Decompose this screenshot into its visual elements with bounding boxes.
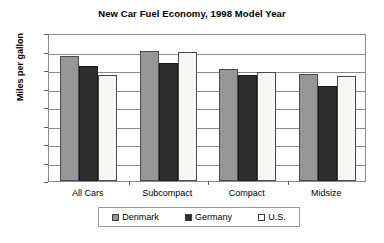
bar-midsize-germany <box>318 86 337 181</box>
bar-chart-figure: New Car Fuel Economy, 1998 Model Year Mi… <box>0 0 384 243</box>
x-tick-label: Compact <box>229 188 265 198</box>
plot-area <box>48 34 366 182</box>
bar-group <box>49 35 129 181</box>
legend-label: U.S. <box>268 212 286 222</box>
y-tick-mark <box>44 108 48 109</box>
y-tick-mark <box>44 53 48 54</box>
legend-item-u-s-[interactable]: U.S. <box>258 212 286 222</box>
chart-title: New Car Fuel Economy, 1998 Model Year <box>0 8 384 19</box>
bar-midsize-denmark <box>299 74 318 181</box>
bar-group <box>129 35 209 181</box>
legend-label: Germany <box>195 212 232 222</box>
y-tick-mark <box>44 71 48 72</box>
y-tick-mark <box>44 145 48 146</box>
x-tick-label: Midsize <box>311 188 342 198</box>
bar-all-cars-u-s- <box>98 75 117 181</box>
y-tick-mark <box>44 34 48 35</box>
x-tick-mark <box>288 181 289 185</box>
legend-item-germany[interactable]: Germany <box>185 212 232 222</box>
legend-swatch-icon <box>258 214 265 221</box>
legend-swatch-icon <box>112 214 119 221</box>
legend-item-denmark[interactable]: Denmark <box>112 212 159 222</box>
x-tick-label: Subcompact <box>142 188 192 198</box>
y-tick-mark <box>44 90 48 91</box>
bar-subcompact-germany <box>159 63 178 181</box>
y-tick-mark <box>44 127 48 128</box>
legend-label: Denmark <box>122 212 159 222</box>
legend-swatch-icon <box>185 214 192 221</box>
bar-all-cars-germany <box>79 66 98 181</box>
x-tick-label: All Cars <box>72 188 104 198</box>
chart-legend: DenmarkGermanyU.S. <box>98 207 300 227</box>
bar-group <box>208 35 288 181</box>
x-tick-mark <box>129 181 130 185</box>
bar-compact-denmark <box>219 69 238 181</box>
x-tick-mark <box>208 181 209 185</box>
y-tick-mark <box>44 182 48 183</box>
y-tick-mark <box>44 164 48 165</box>
y-axis-title: Miles per gallon <box>15 7 25 127</box>
bar-subcompact-u-s- <box>178 52 197 181</box>
bar-compact-germany <box>238 75 257 181</box>
bar-midsize-u-s- <box>337 76 356 181</box>
bar-compact-u-s- <box>257 72 276 181</box>
bar-subcompact-denmark <box>140 51 159 181</box>
bar-group <box>288 35 368 181</box>
bar-all-cars-denmark <box>60 56 79 181</box>
